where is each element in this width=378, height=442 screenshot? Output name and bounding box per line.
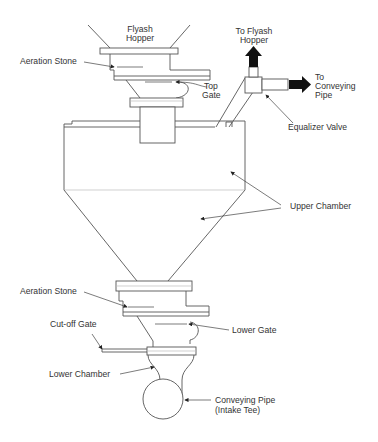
label-lower-gate: Lower Gate: [232, 325, 277, 335]
label-conveying-pipe-1: Conveying Pipe: [215, 395, 275, 405]
cutoff-gate-shape: [102, 341, 196, 355]
lower-gate-shape: [123, 312, 209, 344]
label-to-flyash-hopper-2: Hopper: [240, 35, 268, 45]
conveying-pipe-shape: [143, 379, 183, 419]
top-gate-shape: [114, 76, 210, 143]
flow-arrow-up-icon: [245, 46, 262, 67]
label-upper-chamber: Upper Chamber: [290, 201, 351, 211]
equalizer-valve-shape: [216, 67, 288, 127]
bottom-aeration-stone-shape: [116, 281, 209, 312]
label-lower-chamber: Lower Chamber: [49, 369, 110, 379]
label-to-conveying-pipe-3: Pipe: [315, 90, 332, 100]
label-cutoff-gate: Cut-off Gate: [50, 319, 97, 329]
label-top-gate-2: Gate: [202, 90, 221, 100]
label-conveying-pipe-2: (Intake Tee): [215, 405, 260, 415]
label-flyash-hopper-2: Hopper: [126, 33, 154, 43]
diagram-canvas: Flyash Hopper Aeration Stone Top Gate To…: [0, 0, 378, 442]
top-aeration-stone-shape: [110, 54, 210, 76]
label-equalizer-valve: Equalizer Valve: [288, 122, 347, 132]
upper-chamber-shape: [64, 121, 245, 281]
label-aeration-stone-bottom: Aeration Stone: [20, 286, 77, 296]
label-aeration-stone-top: Aeration Stone: [20, 56, 77, 66]
flow-arrow-right-icon: [289, 76, 311, 93]
